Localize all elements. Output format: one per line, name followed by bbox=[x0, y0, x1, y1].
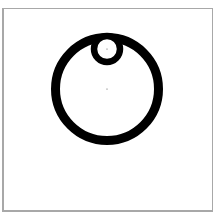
circles-diagram bbox=[0, 0, 220, 215]
outer-center-point bbox=[106, 88, 107, 89]
inner-center-point bbox=[106, 48, 107, 49]
